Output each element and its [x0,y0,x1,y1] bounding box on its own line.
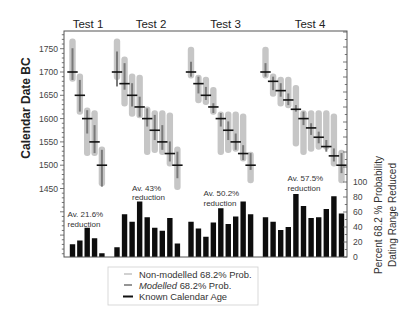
test-2-average-annotation: Av. 43% [132,184,161,193]
left-axis-title: Calendar Date BC [19,57,33,159]
modelled-range [154,115,156,140]
test-2-reduction-label: reduction [132,193,165,202]
test-4-title: Test 4 [295,18,326,30]
test-3-reduction-label: reduction [204,199,237,208]
modelled-range [242,145,244,160]
left-tick-label: 1450 [39,184,58,194]
modelled-range [310,123,312,135]
modelled-range [190,62,192,77]
reduction-bar [248,214,253,257]
modelled-range [341,153,343,173]
test-4-average-annotation: Av. 57.5% [288,174,324,183]
test-3-title: Test 3 [210,18,241,30]
right-tick-label: 100 [353,177,368,187]
right-tick-label: 40 [353,222,363,232]
reduction-bar [218,208,223,257]
right-axis-title-line2: Dating Range Reduced [387,163,398,267]
modelled-range [161,125,163,150]
test-3-average-annotation: Av. 50.2% [204,189,240,198]
reduction-bar [324,209,329,257]
legend-known-label: Known Calendar Age [139,291,227,302]
legend-modelled-italic: Modelled [139,280,178,291]
right-tick-label: 0 [353,252,358,262]
reduction-bar [293,194,298,257]
left-tick-label: 1550 [39,137,58,147]
reduction-bar [316,217,321,257]
reduction-bar [286,227,291,257]
modelled-range [205,87,207,100]
modelled-range [169,141,171,161]
test-1-title: Test 1 [73,18,104,30]
reduction-bar [167,218,172,257]
reduction-bar [137,202,142,258]
modelled-range [146,108,148,126]
test-1-average-annotation: Av. 21.6% [68,210,104,219]
modelled-range [116,51,118,86]
right-tick-label: 60 [353,207,363,217]
modelled-range [197,77,199,94]
right-tick-label: 80 [353,192,363,202]
modelled-range [212,103,214,113]
modelled-range [272,77,274,91]
modelled-range [86,110,88,133]
legend: Non-modelled 68.2% Prob. Modelled 68.2% … [108,267,258,305]
reduction-bar [301,206,306,257]
reduction-bar [226,224,231,257]
reduction-bar [270,222,275,257]
reduction-bar [122,214,127,257]
reduction-bar [308,218,313,257]
reduction-bar [175,244,180,258]
reduction-bar [240,202,245,258]
modelled-range [101,150,103,187]
left-tick-label: 1600 [39,114,58,124]
non-modelled-range [293,85,299,147]
modelled-range [250,153,252,170]
left-tick-label: 1750 [39,44,58,54]
reduction-bar [331,196,336,257]
modelled-range [220,113,222,127]
test-4-reduction-label: reduction [288,184,321,193]
right-axis-title-line1: Percent 68.2 % Probability [373,156,384,274]
left-tick-label: 1700 [39,67,58,77]
reduction-bar [203,237,208,257]
reduction-bar [70,244,75,257]
left-tick-label: 1500 [39,160,58,170]
left-tick-label: 1650 [39,90,58,100]
chart: 1450150015501600165017001750020406080100… [0,0,414,317]
reduction-bar [211,223,216,258]
legend-non-modelled-label: Non-modelled 68.2% Prob. [139,269,252,280]
reduction-bar [129,222,134,257]
reduction-bar [278,230,283,257]
reduction-bar [160,231,165,257]
reduction-bar [152,228,157,257]
reduction-bar [77,241,82,258]
reduction-bar [114,247,119,257]
reduction-bar [145,217,150,257]
test-1-reduction-label: reduction [68,220,101,229]
reduction-bar [233,217,238,258]
reduction-bar [188,222,193,257]
modelled-range [124,63,126,90]
legend-modelled-label: Modelled 68.2% Prob. [139,280,231,291]
reduction-bar [339,214,344,258]
modelled-range [94,125,96,153]
reduction-bar [92,238,97,257]
non-modelled-range [316,110,322,150]
reduction-bar [196,229,201,258]
reduction-bar [263,217,268,257]
modelled-range [265,63,267,77]
legend-modelled-rest: 68.2% Prob. [177,280,231,291]
modelled-range [295,105,297,112]
reduction-bar [99,253,104,257]
test-2-title: Test 2 [136,18,167,30]
modelled-range [333,148,335,161]
reduction-bar [85,228,90,257]
right-tick-label: 20 [353,237,363,247]
modelled-range [72,48,74,80]
